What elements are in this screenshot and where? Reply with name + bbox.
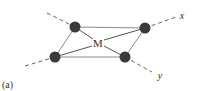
- ligand-atom-bottom-left: [50, 52, 61, 63]
- panel-label: (a): [2, 79, 13, 91]
- ligand-atom-bottom-right: [120, 52, 131, 63]
- edge-top: [75, 27, 145, 28]
- bond-bottom-left: [55, 46, 92, 57]
- axis-y-label: y: [157, 70, 163, 81]
- axis-x-label: x: [179, 10, 185, 21]
- square-planar-diagram: M x y (a): [0, 0, 200, 91]
- bond-top-right: [104, 28, 145, 40]
- metal-center-label: M: [93, 37, 103, 49]
- ligand-atom-top-left: [70, 22, 81, 33]
- ligand-atom-top-right: [140, 23, 151, 34]
